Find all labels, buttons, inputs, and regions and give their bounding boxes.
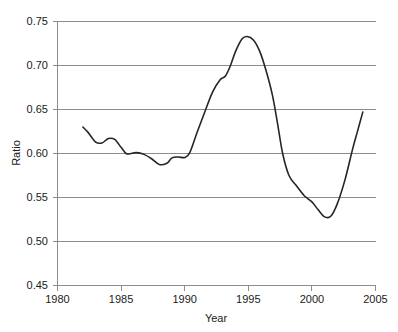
y-tick-label-0.65: 0.65 [27,103,48,115]
y-tick-label-0.45: 0.45 [27,279,48,291]
x-tick-label-1985: 1985 [109,293,133,305]
x-tick-label-1990: 1990 [172,293,196,305]
ratio-vs-year-line-chart: 0.75 0.70 0.65 0.60 0.55 0.50 0.45 1980 … [0,0,398,332]
y-tick-label-0.60: 0.60 [27,147,48,159]
x-axis-title: Year [205,312,228,324]
chart-container: 0.75 0.70 0.65 0.60 0.55 0.50 0.45 1980 … [0,0,398,332]
y-tick-labels-group: 0.75 0.70 0.65 0.60 0.55 0.50 0.45 [27,15,48,291]
y-tick-marks-group [53,22,58,286]
gridlines-group [58,22,376,242]
x-tick-labels-group: 1980 1985 1990 1995 2000 2005 [45,293,387,305]
x-tick-label-1995: 1995 [236,293,260,305]
x-tick-label-2005: 2005 [363,293,387,305]
y-tick-label-0.50: 0.50 [27,235,48,247]
y-tick-label-0.75: 0.75 [27,15,48,27]
y-tick-label-0.70: 0.70 [27,59,48,71]
x-tick-label-2000: 2000 [300,293,324,305]
y-tick-label-0.55: 0.55 [27,191,48,203]
x-tick-label-1980: 1980 [45,293,69,305]
x-tick-marks-group [58,286,376,291]
y-axis-title: Ratio [10,140,22,166]
data-series-ratio [83,36,363,217]
